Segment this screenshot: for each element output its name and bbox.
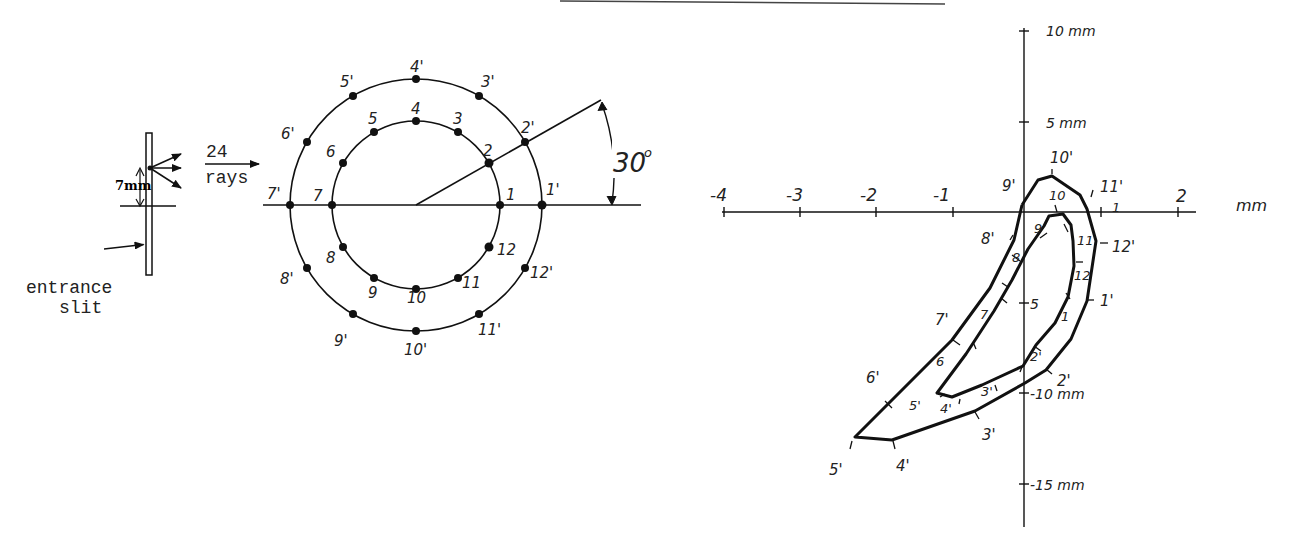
svg-text:-2: -2 [860,185,877,205]
svg-text:4': 4' [940,401,952,416]
svg-text:5 mm: 5 mm [1046,115,1087,131]
svg-text:12': 12' [1112,238,1135,256]
svg-text:6: 6 [326,143,336,161]
rays-word: rays [205,168,248,188]
svg-text:11: 11 [1077,233,1094,248]
svg-text:-3: -3 [786,185,803,205]
svg-text:-4: -4 [710,185,727,205]
svg-text:10: 10 [407,289,426,307]
svg-text:2': 2' [1057,372,1071,390]
svg-text:8': 8' [280,270,294,288]
svg-text:5: 5 [1030,296,1039,312]
svg-text:6': 6' [866,369,880,387]
svg-text:9: 9 [368,284,378,302]
svg-text:11: 11 [462,274,481,292]
svg-text:1': 1' [546,181,560,199]
svg-text:8: 8 [1012,250,1020,265]
svg-text:4: 4 [411,100,421,118]
angle-label: 30 [613,148,646,178]
x-tick-labels: -4 -3 -2 -1 1 2 mm [710,185,1267,215]
curve-point-ticks [850,169,1108,449]
svg-text:10': 10' [1050,149,1073,167]
svg-text:12: 12 [497,241,516,259]
svg-text:11': 11' [1100,178,1123,196]
ray-pattern: 30 o [263,58,652,359]
scan-edge-line [560,1,945,4]
svg-text:7': 7' [935,311,949,329]
svg-text:2: 2 [483,142,493,160]
rays-count: 24 [206,142,228,162]
svg-text:5: 5 [368,110,378,128]
optics-diagram: 7mm entrance slit 24 rays 30 o [0,0,1302,544]
svg-text:3': 3' [981,384,993,399]
spot-plot: -4 -3 -2 -1 1 2 mm 10 mm 5 mm 5 -10 mm -… [710,23,1267,527]
svg-text:6: 6 [936,354,944,369]
svg-text:mm: mm [1236,196,1267,215]
inner-spot-curve [937,214,1074,397]
ray-arrow-up [150,154,181,168]
svg-text:7: 7 [980,307,989,322]
entrance-slit-label: entrance [26,278,112,298]
svg-text:5': 5' [909,398,921,413]
angle-degree: o [644,145,652,160]
svg-text:9': 9' [1002,177,1016,195]
svg-text:8: 8 [326,249,336,267]
svg-text:4': 4' [410,58,424,76]
svg-text:10 mm: 10 mm [1046,23,1096,39]
svg-text:2': 2' [1030,349,1042,364]
svg-text:3': 3' [982,426,996,444]
svg-text:9': 9' [334,332,348,350]
svg-text:5': 5' [340,73,354,91]
svg-text:10': 10' [404,341,427,359]
inner-labels: 1 2 3 4 5 6 7 8 9 10 11 12 [313,100,516,307]
svg-text:3: 3 [453,110,463,128]
svg-text:5': 5' [829,461,843,479]
svg-text:9: 9 [1034,221,1042,236]
svg-text:2: 2 [1176,186,1187,206]
svg-text:12: 12 [1074,268,1091,283]
ray-arrow-down [150,168,181,188]
svg-text:1: 1 [1112,200,1120,215]
svg-text:11': 11' [478,321,501,339]
svg-text:1': 1' [1100,292,1114,310]
svg-text:-1: -1 [933,185,950,205]
svg-text:7: 7 [313,187,323,205]
slit-pointer-arrow [104,237,144,257]
svg-text:2': 2' [521,119,535,137]
svg-text:12': 12' [530,264,553,282]
svg-text:7': 7' [267,185,281,203]
entrance-slit-figure: 7mm entrance slit 24 rays [26,133,259,318]
svg-text:6': 6' [281,125,295,143]
svg-text:8': 8' [981,230,995,248]
svg-text:10: 10 [1049,188,1066,203]
svg-text:4': 4' [896,457,910,475]
y-tick-labels: 10 mm 5 mm 5 -10 mm -15 mm [1030,23,1096,493]
svg-text:-15 mm: -15 mm [1030,477,1085,493]
entrance-slit-label-2: slit [59,298,102,318]
svg-text:3': 3' [481,73,495,91]
svg-text:1: 1 [1061,309,1069,324]
svg-text:1: 1 [506,186,516,204]
dimension-label: 7mm [115,178,152,193]
entrance-slit [146,133,152,275]
